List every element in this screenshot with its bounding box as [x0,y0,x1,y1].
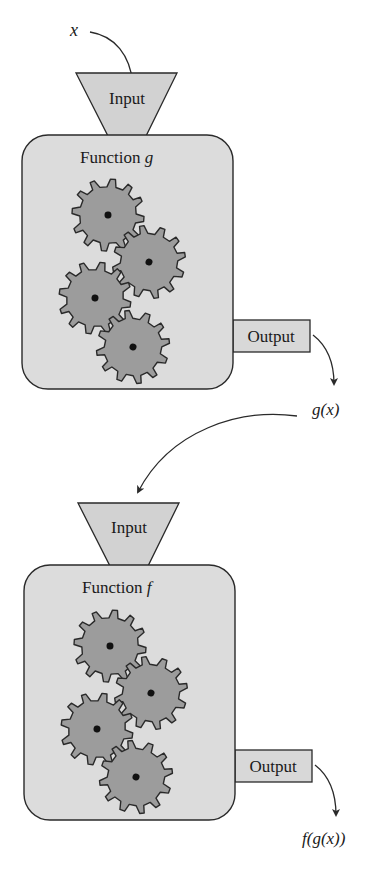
input-variable-label: x [69,20,78,40]
input-label-f: Input [111,518,147,537]
input-label-g: Input [109,89,145,108]
output-arrow-icon-f [315,765,336,815]
result-label-g: g(x) [312,400,340,419]
machine-f: Input Output Function f f(g(x)) [24,503,346,848]
function-title-f: Function f [82,578,154,597]
output-label-g: Output [247,327,295,346]
function-composition-diagram: x Input Output Function g g(x) Input Out… [0,0,370,872]
output-arrow-icon-g [313,335,334,384]
machine-g: Input Output Function g g(x) [22,73,340,419]
connecting-arrow-icon [138,414,297,492]
function-title-g: Function g [80,148,153,167]
output-label-f: Output [249,757,297,776]
result-label-f: f(g(x)) [302,829,346,848]
